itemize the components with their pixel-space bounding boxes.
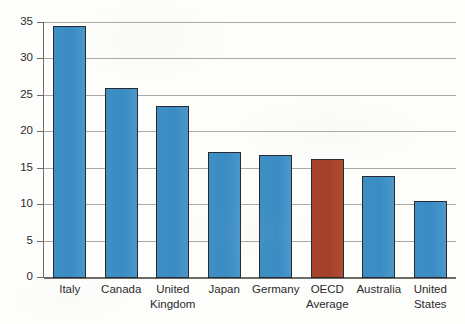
bar-chart: 35302520151050 ItalyCanadaUnitedKingdomJ… [0, 0, 465, 324]
y-tick-20 [37, 131, 44, 132]
y-tick-0 [37, 277, 44, 278]
bar-united-kingdom[interactable] [156, 106, 189, 278]
y-axis-tick-label: 30 [7, 52, 33, 64]
bar-italy[interactable] [53, 26, 86, 278]
bar-japan[interactable] [208, 152, 241, 278]
x-axis-category-line: States [399, 297, 463, 312]
y-tick-5 [37, 241, 44, 242]
y-tick-15 [37, 168, 44, 169]
y-axis-tick-label: 0 [7, 271, 33, 283]
x-axis-category-line: United [399, 282, 463, 297]
y-tick-30 [37, 58, 44, 59]
bar-oecd-average[interactable] [311, 159, 344, 278]
y-axis-tick-label: 5 [7, 235, 33, 247]
y-axis-tick-label: 25 [7, 89, 33, 101]
y-axis-tick-label: 20 [7, 125, 33, 137]
y-tick-35 [37, 22, 44, 23]
bar-australia[interactable] [362, 176, 395, 278]
y-axis-tick-label: 15 [7, 162, 33, 174]
y-axis-labels: 35302520151050 [0, 0, 33, 324]
y-tick-25 [37, 95, 44, 96]
bar-united-states[interactable] [414, 201, 447, 278]
x-axis-category-line: Kingdom [141, 297, 205, 312]
x-axis-category-line: Average [296, 297, 360, 312]
y-axis-tick-label: 35 [7, 16, 33, 28]
bar-germany[interactable] [259, 155, 292, 278]
bars-layer [44, 22, 456, 278]
bar-canada[interactable] [105, 88, 138, 278]
y-tick-10 [37, 204, 44, 205]
x-axis-labels: ItalyCanadaUnitedKingdomJapanGermanyOECD… [44, 282, 456, 324]
y-axis-tick-label: 10 [7, 198, 33, 210]
x-axis-category-label: UnitedStates [399, 282, 463, 311]
